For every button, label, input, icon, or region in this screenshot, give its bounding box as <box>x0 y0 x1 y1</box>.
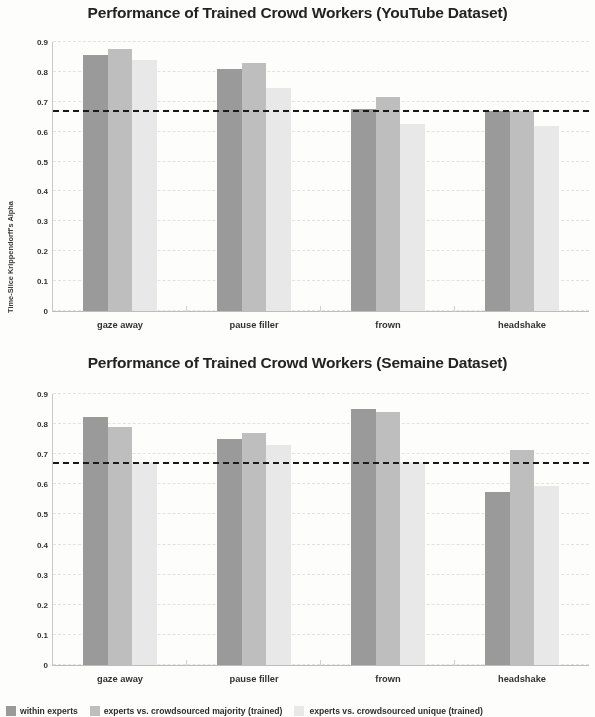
bar <box>242 63 267 311</box>
bar <box>534 486 559 665</box>
y-axis-tick-label: 0 <box>44 661 48 670</box>
bar <box>132 462 157 665</box>
x-axis-tick-label: gaze away <box>97 674 143 684</box>
bar-group: gaze away <box>53 394 187 665</box>
y-axis-tick-label: 0.2 <box>37 600 48 609</box>
x-axis-tick-label: pause filler <box>229 320 278 330</box>
threshold-line <box>53 110 589 112</box>
legend-item: within experts <box>6 706 78 716</box>
y-axis-tick-label: 0.6 <box>37 480 48 489</box>
bar <box>400 124 425 311</box>
bar-group: headshake <box>455 394 589 665</box>
bar <box>376 97 401 311</box>
x-axis-tick-label: headshake <box>498 320 546 330</box>
y-axis-tick-label: 0 <box>44 307 48 316</box>
bar <box>132 60 157 311</box>
y-axis-tick-label: 0.7 <box>37 450 48 459</box>
y-axis-tick-label: 0.3 <box>37 217 48 226</box>
y-axis-tick-label: 0.1 <box>37 277 48 286</box>
y-axis-tick-label: 0.4 <box>37 187 48 196</box>
x-axis-tick-label: frown <box>375 674 400 684</box>
bar <box>217 439 242 665</box>
bar-group: headshake <box>455 42 589 311</box>
y-axis-label-semaine: Time-Slice Krippendorff's Alpha <box>6 122 15 392</box>
bar <box>83 55 108 311</box>
chart-panel-semaine: Performance of Trained Crowd Workers (Se… <box>0 340 595 692</box>
legend-item: experts vs. crowdsourced majority (train… <box>90 706 283 716</box>
y-axis-tick-label: 0.9 <box>37 38 48 47</box>
chart-title-semaine: Performance of Trained Crowd Workers (Se… <box>0 354 595 372</box>
x-axis-tick-label: pause filler <box>229 674 278 684</box>
bar-cluster <box>217 42 291 311</box>
x-axis-tick-label: headshake <box>498 674 546 684</box>
y-axis-tick-label: 0.6 <box>37 127 48 136</box>
bar-cluster <box>351 42 425 311</box>
bar <box>400 462 425 665</box>
bar-cluster <box>83 42 157 311</box>
legend-item: experts vs. crowdsourced unique (trained… <box>294 706 482 716</box>
y-axis-tick-label: 0.3 <box>37 570 48 579</box>
y-axis-tick-label: 0.2 <box>37 247 48 256</box>
bar-cluster <box>485 42 559 311</box>
bar <box>510 450 535 665</box>
bar-group: pause filler <box>187 394 321 665</box>
bar <box>351 109 376 311</box>
bar <box>351 409 376 665</box>
y-axis-tick-label: 0.1 <box>37 630 48 639</box>
bar <box>376 412 401 665</box>
chart-panel-youtube: Performance of Trained Crowd Workers (Yo… <box>0 0 595 340</box>
y-axis-tick-label: 0.5 <box>37 157 48 166</box>
chart-title-youtube: Performance of Trained Crowd Workers (Yo… <box>0 4 595 22</box>
x-axis-tick-label: gaze away <box>97 320 143 330</box>
legend-item-label: experts vs. crowdsourced majority (train… <box>104 706 283 716</box>
legend-swatch-unique <box>294 706 304 716</box>
bar <box>83 417 108 665</box>
bar-groups: gaze awaypause fillerfrownheadshake <box>53 42 589 311</box>
y-axis-tick-label: 0.8 <box>37 420 48 429</box>
x-axis-tick-label: frown <box>375 320 400 330</box>
bar-cluster <box>217 394 291 665</box>
bar-cluster <box>351 394 425 665</box>
bar <box>534 126 559 311</box>
bar <box>217 69 242 311</box>
bar <box>266 445 291 665</box>
y-axis-tick-label: 0.7 <box>37 97 48 106</box>
y-axis-label-youtube: Time-Slice Krippendorff's Alpha <box>6 0 15 40</box>
bar-cluster <box>485 394 559 665</box>
bar-group: frown <box>321 42 455 311</box>
plot-area-youtube: 0.90.80.70.60.50.40.30.20.10gaze awaypau… <box>52 42 589 312</box>
bar-groups: gaze awaypause fillerfrownheadshake <box>53 394 589 665</box>
bar-cluster <box>83 394 157 665</box>
bar-group: pause filler <box>187 42 321 311</box>
chart-legend: within expertsexperts vs. crowdsourced m… <box>0 706 595 716</box>
plot-area-semaine: 0.90.80.70.60.50.40.30.20.10gaze awaypau… <box>52 394 589 666</box>
bar-group: gaze away <box>53 42 187 311</box>
legend-swatch-majority <box>90 706 100 716</box>
bar <box>266 88 291 311</box>
legend-swatch-within-experts <box>6 706 16 716</box>
bar <box>485 111 510 311</box>
y-axis-tick-label: 0.4 <box>37 540 48 549</box>
bar <box>108 49 133 311</box>
y-axis-tick-label: 0.5 <box>37 510 48 519</box>
bar <box>242 433 267 665</box>
y-axis-tick-label: 0.8 <box>37 67 48 76</box>
legend-item-label: within experts <box>20 706 78 716</box>
threshold-line <box>53 462 589 464</box>
figure-trained-crowd-workers: Performance of Trained Crowd Workers (Yo… <box>0 0 595 717</box>
y-axis-tick-label: 0.9 <box>37 390 48 399</box>
bar <box>510 111 535 311</box>
bar <box>485 492 510 665</box>
bar-group: frown <box>321 394 455 665</box>
legend-item-label: experts vs. crowdsourced unique (trained… <box>309 706 482 716</box>
